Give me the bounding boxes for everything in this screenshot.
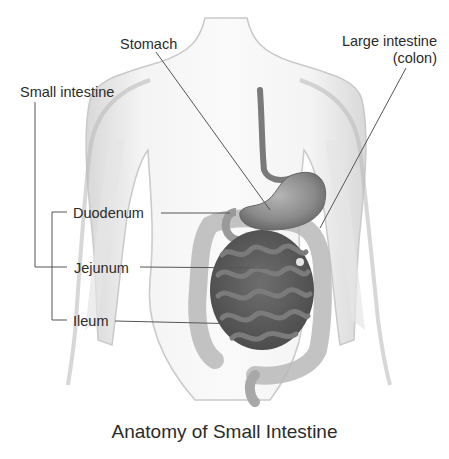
figure-title: Anatomy of Small Intestine [0,421,449,443]
label-duodenum: Duodenum [73,205,144,221]
anatomy-diagram [0,0,449,459]
label-ileum: Ileum [73,313,108,329]
label-small-intestine: Small intestine [20,84,114,100]
label-stomach: Stomach [120,36,177,52]
label-colon: (colon) [393,50,437,66]
label-large-intestine: Large intestine [342,33,437,49]
label-jejunum: Jejunum [74,260,129,276]
